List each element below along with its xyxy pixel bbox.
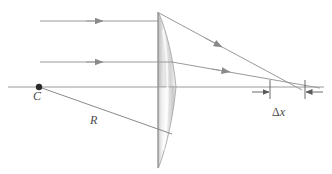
delta-x-variable: x <box>280 105 285 119</box>
refracted-ray-2-arrowhead <box>212 69 230 72</box>
incoming-rays-group <box>40 21 173 62</box>
ray-diagram-canvas <box>0 0 332 174</box>
optics-figure: C R Δx <box>0 0 332 174</box>
refracted-ray-1-arrowhead <box>205 38 222 47</box>
focus-tick-marks <box>270 80 305 99</box>
label-radius: R <box>90 114 97 126</box>
plano-convex-lens <box>158 12 176 168</box>
label-delta-x: Δx <box>272 106 285 118</box>
label-center-of-curvature: C <box>33 90 41 102</box>
refracted-ray-1 <box>159 13 302 90</box>
refracted-ray-2 <box>172 62 320 88</box>
radius-line <box>39 87 172 134</box>
delta-symbol: Δ <box>272 105 280 119</box>
refracted-rays-group <box>159 13 320 90</box>
